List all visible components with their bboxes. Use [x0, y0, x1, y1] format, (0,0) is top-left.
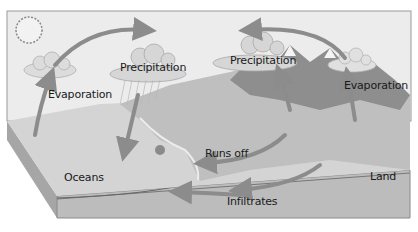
label-infiltrates: Infiltrates — [227, 196, 277, 207]
label-runs-off: Runs off — [205, 148, 248, 159]
label-oceans: Oceans — [64, 172, 104, 183]
label-evaporation-left: Evaporation — [48, 89, 112, 100]
sun-icon — [16, 17, 42, 43]
label-precipitation-left: Precipitation — [120, 62, 186, 73]
label-evaporation-right: Evaporation — [344, 80, 408, 91]
label-precipitation-right: Precipitation — [230, 55, 296, 66]
lake — [155, 145, 165, 155]
label-land: Land — [370, 171, 396, 182]
water-cycle-diagram — [0, 0, 418, 232]
